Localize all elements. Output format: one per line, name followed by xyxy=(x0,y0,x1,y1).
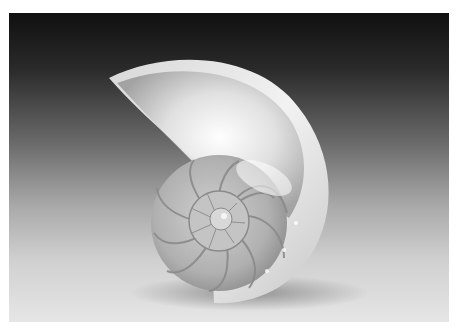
nautilus-photo xyxy=(9,13,449,322)
shell-center-highlight xyxy=(221,213,227,219)
shell-center xyxy=(210,208,232,230)
nautilus-shell xyxy=(9,13,449,322)
